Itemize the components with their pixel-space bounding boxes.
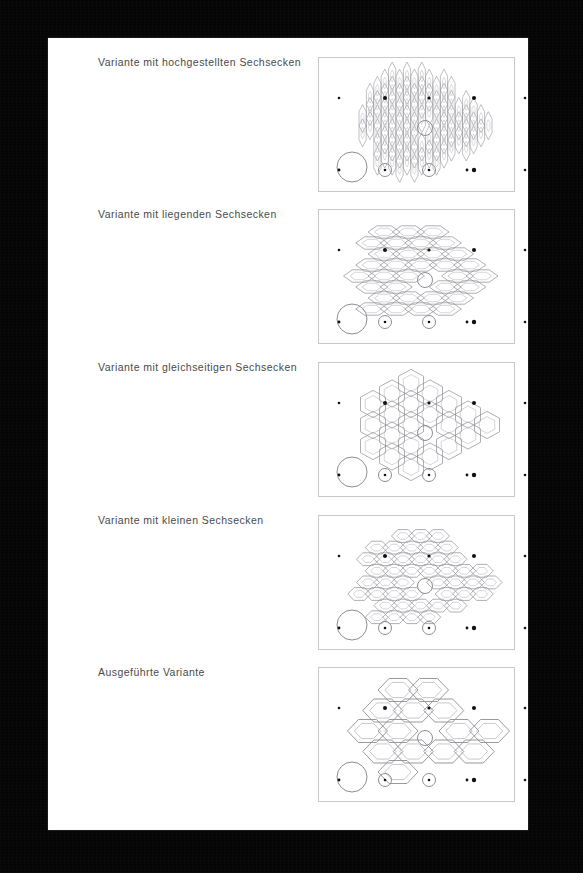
photograph-background: Variante mit hochgestellten Sechsecken V…: [0, 0, 583, 873]
variant-diagram-panel: [318, 362, 515, 497]
hexagon-pattern-svg: [319, 668, 514, 801]
document-sheet: Variante mit hochgestellten Sechsecken V…: [48, 38, 528, 830]
hexagon-pattern-svg: [319, 58, 514, 191]
variant-label: Variante mit liegenden Sechsecken: [98, 208, 320, 220]
hexagon-pattern-svg: [319, 210, 514, 343]
variant-diagram-panel: [318, 57, 515, 192]
hexagon-pattern-svg: [319, 363, 514, 496]
hexagon-pattern-svg: [319, 516, 514, 649]
variant-diagram-panel: [318, 209, 515, 344]
variant-row: Variante mit kleinen Sechsecken: [48, 496, 528, 648]
variant-row: Variante mit liegenden Sechsecken: [48, 190, 528, 342]
variant-row: Variante mit hochgestellten Sechsecken: [48, 38, 528, 190]
variant-row: Variante mit gleichseitigen Sechsecken: [48, 343, 528, 495]
variant-label: Ausgeführte Variante: [98, 666, 320, 678]
variant-label: Variante mit hochgestellten Sechsecken: [98, 56, 320, 68]
variant-diagram-panel: [318, 667, 515, 802]
variant-row: Ausgeführte Variante: [48, 648, 528, 800]
variant-diagram-panel: [318, 515, 515, 650]
variant-label: Variante mit gleichseitigen Sechsecken: [98, 361, 320, 373]
variant-label: Variante mit kleinen Sechsecken: [98, 514, 320, 526]
